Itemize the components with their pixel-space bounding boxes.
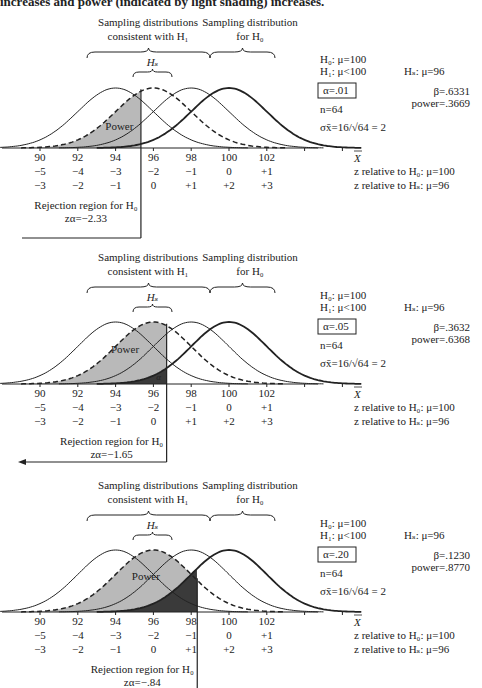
x-tick-label: 98 <box>186 151 198 163</box>
brace-h0-sublabel: for H₀ <box>236 493 264 505</box>
alpha-value: α=.01 <box>323 84 349 96</box>
z-alpha-label: zα=−.84 <box>124 676 161 688</box>
x-axis-label: X <box>353 152 362 164</box>
z-h0-axis-label: z relative to H₀: μ=100 <box>354 401 455 413</box>
brace-h0-label: Sampling distribution <box>202 251 298 263</box>
z-hs-tick-label: −1 <box>110 643 122 655</box>
rejection-region-label: Rejection region for H₀ <box>91 663 194 675</box>
alpha-region-label: α <box>156 372 161 382</box>
x-tick-label: 94 <box>110 151 122 163</box>
beta-value: β=.3632 <box>433 321 470 333</box>
z-h0-tick-label: −3 <box>110 165 122 177</box>
x-tick-label: 92 <box>72 615 83 627</box>
brace-h0-label: Sampling distribution <box>202 479 298 491</box>
hs-brace-label: Hₛ <box>146 291 159 303</box>
sample-size: n=64 <box>320 103 343 115</box>
h1-statement: H₁: μ<100 <box>320 65 367 77</box>
brace-hs <box>133 69 172 77</box>
z-h0-axis-label: z relative to H₀: μ=100 <box>354 629 455 641</box>
standard-error: σx̄=16/√64 = 2 <box>320 357 386 369</box>
beta-value: β=.6331 <box>433 85 470 97</box>
x-axis-label: X <box>353 616 362 628</box>
h0-statement: H₀: μ=100 <box>320 517 367 529</box>
z-h0-tick-label: −5 <box>34 629 46 641</box>
z-h0-tick-label: 0 <box>226 165 232 177</box>
x-tick-label: 90 <box>35 387 47 399</box>
brace-h0-sublabel: for H₀ <box>236 265 264 277</box>
z-h0-tick-label: 0 <box>226 629 232 641</box>
z-hs-tick-label: −3 <box>34 643 46 655</box>
z-h0-tick-label: −1 <box>185 629 197 641</box>
standard-error: σx̄=16/√64 = 2 <box>320 121 386 133</box>
z-hs-tick-label: −2 <box>72 415 84 427</box>
x-tick-label: 100 <box>221 387 238 399</box>
brace-h1-label: Sampling distributions <box>98 251 198 263</box>
x-tick-label: 100 <box>221 615 238 627</box>
hs-statement: Hₛ: μ=96 <box>404 65 445 77</box>
z-h0-tick-label: −5 <box>34 165 46 177</box>
z-hs-tick-label: 0 <box>151 415 157 427</box>
x-tick-label: 94 <box>110 615 122 627</box>
x-tick-label: 96 <box>148 615 160 627</box>
z-h0-axis-label: z relative to H₀: μ=100 <box>354 165 455 177</box>
z-hs-axis-label: z relative to Hₛ: μ=96 <box>354 415 450 427</box>
z-hs-tick-label: +1 <box>185 643 197 655</box>
z-hs-tick-label: −1 <box>110 415 122 427</box>
x-tick-label: 90 <box>35 151 47 163</box>
z-h0-tick-label: −4 <box>72 629 84 641</box>
power-label: Power <box>132 570 160 582</box>
x-tick-label: 98 <box>186 387 198 399</box>
brace-h0 <box>210 48 275 58</box>
z-alpha-label: zα=−2.33 <box>65 212 108 224</box>
z-hs-tick-label: +2 <box>223 415 235 427</box>
z-hs-tick-label: −2 <box>72 179 84 191</box>
rejection-region-label: Rejection region for H₀ <box>60 435 163 447</box>
z-alpha-label: zα=−1.65 <box>90 448 133 460</box>
sample-size: n=64 <box>320 567 343 579</box>
z-hs-tick-label: +3 <box>261 415 273 427</box>
alpha-value: α=.05 <box>323 320 349 332</box>
rejection-region-label: Rejection region for H₀ <box>34 199 137 211</box>
z-h0-tick-label: +1 <box>261 165 273 177</box>
z-h0-tick-label: −4 <box>72 401 84 413</box>
brace-h1-sublabel: consistent with H₁ <box>108 30 189 42</box>
z-h0-tick-label: +1 <box>261 629 273 641</box>
brace-h1-label: Sampling distributions <box>98 16 198 28</box>
z-hs-tick-label: +2 <box>223 179 235 191</box>
power-label: Power <box>105 120 133 132</box>
hs-statement: Hₛ: μ=96 <box>404 301 445 313</box>
z-h0-tick-label: −2 <box>148 401 160 413</box>
x-tick-label: 102 <box>259 387 276 399</box>
z-hs-tick-label: −1 <box>110 179 122 191</box>
x-tick-label: 92 <box>72 387 83 399</box>
hs-statement: Hₛ: μ=96 <box>404 529 445 541</box>
z-h0-tick-label: −1 <box>185 165 197 177</box>
beta-value: β=.1230 <box>433 549 470 561</box>
z-h0-tick-label: −1 <box>185 401 197 413</box>
z-h0-tick-label: −2 <box>148 629 160 641</box>
z-hs-tick-label: +2 <box>223 643 235 655</box>
z-hs-axis-label: z relative to Hₛ: μ=96 <box>354 643 450 655</box>
z-hs-tick-label: 0 <box>151 643 157 655</box>
brace-h0 <box>210 511 275 521</box>
x-tick-label: 96 <box>148 387 160 399</box>
x-tick-label: 98 <box>186 615 198 627</box>
x-tick-label: 90 <box>35 615 47 627</box>
brace-h0 <box>210 283 275 293</box>
arrow-left-icon <box>18 459 26 465</box>
x-tick-label: 100 <box>221 151 238 163</box>
hs-brace-label: Hₛ <box>146 56 159 68</box>
z-h0-tick-label: −3 <box>110 629 122 641</box>
brace-hs <box>133 532 172 540</box>
brace-h0-sublabel: for H₀ <box>236 30 264 42</box>
h0-statement: H₀: μ=100 <box>320 53 367 65</box>
brace-h0-label: Sampling distribution <box>202 16 298 28</box>
x-tick-label: 102 <box>259 151 276 163</box>
power-label: Power <box>111 343 139 355</box>
brace-h1-sublabel: consistent with H₁ <box>108 493 189 505</box>
z-hs-tick-label: −3 <box>34 179 46 191</box>
z-h0-tick-label: +1 <box>261 401 273 413</box>
z-hs-tick-label: +1 <box>185 179 197 191</box>
x-axis-label: X <box>353 388 362 400</box>
x-tick-label: 92 <box>72 151 83 163</box>
